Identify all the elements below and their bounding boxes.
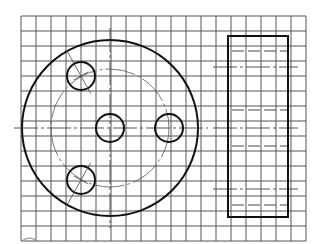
side-view-outline xyxy=(228,36,288,217)
technical-drawing xyxy=(0,0,316,244)
grid xyxy=(21,16,306,241)
side-view xyxy=(213,36,298,217)
